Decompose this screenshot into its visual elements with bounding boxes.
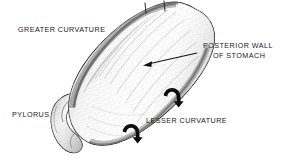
stomach-anatomy-figure: GREATER CURVATURE PYLORUS LESSER CURVATU… xyxy=(0,0,285,164)
label-posterior-wall-line-1: POSTERIOR WALL xyxy=(203,41,273,50)
label-posterior-wall-line-2: OF STOMACH xyxy=(203,51,273,61)
label-pylorus: PYLORUS xyxy=(12,110,50,120)
label-greater-curvature: GREATER CURVATURE xyxy=(18,25,105,35)
stomach-body-structure xyxy=(60,0,230,160)
label-lesser-curvature: LESSER CURVATURE xyxy=(146,116,227,126)
label-posterior-wall-of-stomach: POSTERIOR WALL OF STOMACH xyxy=(203,41,273,60)
